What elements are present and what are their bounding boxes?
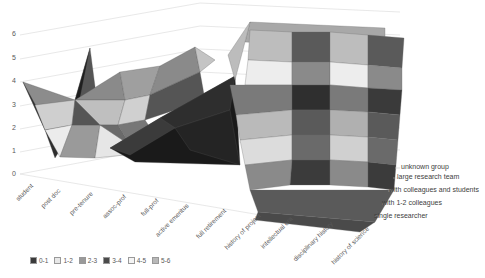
legend-item-0-1: 0-1 <box>30 257 48 264</box>
chart-legend: 0-1 1-2 2-3 3-4 4-5 5-6 <box>30 257 170 264</box>
series-label-unknown-group: unknown group <box>401 163 449 170</box>
y-tick-1: 1 <box>6 147 16 154</box>
y-tick-5: 5 <box>6 54 16 61</box>
y-tick-4: 4 <box>6 77 16 84</box>
legend-swatch <box>54 257 61 264</box>
legend-item-5-6: 5-6 <box>152 257 170 264</box>
surface-right <box>228 22 404 232</box>
y-tick-2: 2 <box>6 124 16 131</box>
legend-label: 1-2 <box>63 257 72 264</box>
legend-label: 3-4 <box>112 257 121 264</box>
legend-swatch <box>103 257 110 264</box>
legend-swatch <box>128 257 135 264</box>
legend-label: 2-3 <box>88 257 97 264</box>
legend-item-2-3: 2-3 <box>79 257 97 264</box>
y-tick-3: 3 <box>6 101 16 108</box>
y-tick-0: 0 <box>6 170 16 177</box>
legend-label: 5-6 <box>161 257 170 264</box>
surface-chart <box>0 0 485 278</box>
legend-label: 4-5 <box>137 257 146 264</box>
legend-label: 0-1 <box>39 257 48 264</box>
legend-item-3-4: 3-4 <box>103 257 121 264</box>
legend-item-4-5: 4-5 <box>128 257 146 264</box>
surface-left <box>23 47 240 165</box>
series-label-single-researcher: single researcher <box>374 212 428 219</box>
legend-swatch <box>30 257 37 264</box>
legend-item-1-2: 1-2 <box>54 257 72 264</box>
legend-swatch <box>152 257 159 264</box>
series-label-large-research-team: large research team <box>397 173 459 180</box>
legend-swatch <box>79 257 86 264</box>
series-label-1-2-colleagues: with 1-2 colleagues <box>382 199 442 206</box>
y-tick-6: 6 <box>6 30 16 37</box>
series-label-colleagues-students: with colleagues and students <box>389 186 479 193</box>
